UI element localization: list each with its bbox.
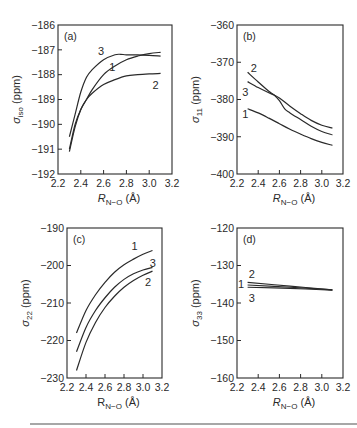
panel-c: 2.22.42.62.83.03.2−190−200−210−220−230RN… bbox=[19, 222, 169, 411]
x-tick-label: 3.0 bbox=[136, 381, 151, 393]
x-tick-label: 2.6 bbox=[272, 177, 287, 189]
y-tick-label: −370 bbox=[210, 56, 234, 68]
x-tick-label: 2.8 bbox=[119, 177, 134, 189]
x-tick-label: 2.4 bbox=[251, 381, 266, 393]
curve-2 bbox=[77, 271, 153, 370]
x-tick-label: 3.0 bbox=[314, 177, 329, 189]
y-tick-label: −189 bbox=[31, 93, 55, 105]
x-tick-label: 3.2 bbox=[336, 177, 351, 189]
x-tick-label: 3.2 bbox=[155, 381, 170, 393]
y-tick-label: −160 bbox=[210, 372, 234, 384]
curve-label-3: 3 bbox=[150, 257, 156, 269]
axes-frame bbox=[58, 25, 172, 174]
y-axis-label: σ33 (ppm) bbox=[189, 279, 204, 326]
y-tick-label: −188 bbox=[31, 68, 55, 80]
panel-a: 2.22.42.62.83.03.2−186−187−188−189−190−1… bbox=[10, 19, 179, 207]
y-tick-label: −210 bbox=[40, 297, 64, 309]
x-tick-label: 2.6 bbox=[98, 381, 113, 393]
y-tick-label: −186 bbox=[31, 19, 55, 31]
x-tick-label: 2.6 bbox=[272, 381, 287, 393]
curve-label-1: 1 bbox=[238, 278, 244, 290]
axes-frame bbox=[237, 25, 343, 174]
y-tick-label: −220 bbox=[40, 334, 64, 346]
curve-label-3: 3 bbox=[242, 86, 248, 98]
curve-label-1: 1 bbox=[132, 240, 138, 252]
panel-label: (d) bbox=[243, 233, 256, 245]
panel-label: (c) bbox=[73, 233, 85, 245]
y-tick-label: −360 bbox=[210, 19, 234, 31]
panel-d: 2.22.42.62.83.03.2−120−130−140−150−160RN… bbox=[189, 222, 350, 411]
y-tick-label: −380 bbox=[210, 93, 234, 105]
curve-label-1: 1 bbox=[109, 61, 115, 73]
curve-label-3: 3 bbox=[249, 292, 255, 304]
x-tick-label: 2.8 bbox=[117, 381, 132, 393]
panel-label: (a) bbox=[64, 30, 77, 42]
x-axis-label: RN−O (Å) bbox=[98, 192, 140, 207]
curve-3 bbox=[248, 82, 333, 129]
y-tick-label: −390 bbox=[210, 131, 234, 143]
curve-1 bbox=[77, 251, 153, 334]
y-tick-label: −120 bbox=[210, 222, 234, 234]
panels-group: 2.22.42.62.83.03.2−186−187−188−189−190−1… bbox=[10, 19, 350, 411]
curve-label-2: 2 bbox=[249, 268, 255, 280]
curve-1 bbox=[248, 109, 333, 146]
panel-label: (b) bbox=[243, 30, 256, 42]
y-tick-label: −192 bbox=[31, 168, 55, 180]
curve-label-3: 3 bbox=[98, 45, 104, 57]
curve-label-2: 2 bbox=[153, 79, 159, 91]
x-tick-label: 3.2 bbox=[165, 177, 180, 189]
y-axis-label: σiso (ppm) bbox=[10, 75, 25, 124]
y-tick-label: −140 bbox=[210, 297, 234, 309]
y-tick-label: −191 bbox=[31, 143, 55, 155]
x-axis-label: RN−O (Å) bbox=[97, 396, 139, 411]
y-tick-label: −200 bbox=[40, 259, 64, 271]
x-tick-label: 2.8 bbox=[293, 381, 308, 393]
x-tick-label: 2.4 bbox=[73, 177, 88, 189]
y-tick-label: −230 bbox=[40, 372, 64, 384]
panel-b: 2.22.42.62.83.03.2−360−370−380−390−400RN… bbox=[189, 19, 350, 207]
x-tick-label: 2.6 bbox=[96, 177, 111, 189]
x-tick-label: 2.4 bbox=[79, 381, 94, 393]
x-tick-label: 2.8 bbox=[293, 177, 308, 189]
y-axis-label: σ11 (ppm) bbox=[189, 76, 204, 123]
x-tick-label: 2.4 bbox=[251, 177, 266, 189]
curve-label-2: 2 bbox=[251, 62, 257, 74]
y-tick-label: −400 bbox=[210, 168, 234, 180]
y-tick-label: −150 bbox=[210, 334, 234, 346]
x-axis-label: RN−O (Å) bbox=[273, 396, 315, 411]
x-tick-label: 3.2 bbox=[336, 381, 351, 393]
y-tick-label: −190 bbox=[40, 222, 64, 234]
x-axis-label: RN−O (Å) bbox=[273, 192, 315, 207]
y-axis-label: σ22 (ppm) bbox=[19, 279, 34, 326]
y-tick-label: −130 bbox=[210, 259, 234, 271]
curve-label-1: 1 bbox=[242, 108, 248, 120]
y-tick-label: −187 bbox=[31, 44, 55, 56]
y-tick-label: −190 bbox=[31, 118, 55, 130]
x-tick-label: 3.0 bbox=[142, 177, 157, 189]
curve-2 bbox=[248, 72, 333, 135]
curve-label-2: 2 bbox=[145, 276, 151, 288]
x-tick-label: 3.0 bbox=[314, 381, 329, 393]
figure-canvas: 2.22.42.62.83.03.2−186−187−188−189−190−1… bbox=[0, 0, 357, 428]
